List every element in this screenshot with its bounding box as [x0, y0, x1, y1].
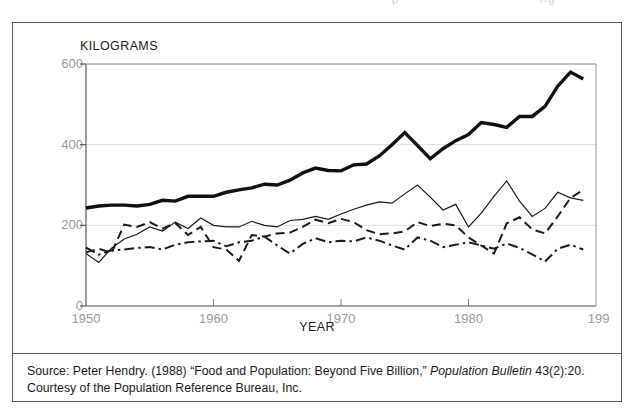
- chart-svg: [13, 23, 621, 353]
- bleed-fragment-right: rrg: [540, 0, 555, 5]
- chart-plot-region: KILOGRAMS 0200400600 1950196019701980199…: [13, 23, 621, 353]
- caption-line1-pre: Source: Peter Hendry. (1988) “Food and P…: [27, 364, 430, 378]
- caption-line1-post: 43(2):20.: [532, 364, 585, 378]
- scan-top-bleed: p rrg: [0, 0, 635, 20]
- caption-divider: [13, 353, 621, 354]
- plot-frame: [86, 64, 596, 306]
- data-series-group: [86, 72, 583, 262]
- figure-caption: Source: Peter Hendry. (1988) “Food and P…: [27, 363, 607, 397]
- series-4-dash-dot: [86, 237, 583, 262]
- figure-container: KILOGRAMS 0200400600 1950196019701980199…: [12, 22, 622, 402]
- bleed-fragment-left: p: [392, 0, 399, 5]
- x-axis-title: YEAR: [13, 320, 621, 334]
- caption-line2: Courtesy of the Population Reference Bur…: [27, 381, 302, 395]
- series-1-thick-solid: [86, 72, 583, 208]
- caption-journal-title: Population Bulletin: [430, 364, 532, 378]
